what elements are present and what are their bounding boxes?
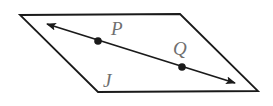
point-p-label: P	[110, 18, 123, 39]
line-in-plane-diagram: P Q J	[0, 0, 273, 106]
point-q-label: Q	[173, 38, 187, 59]
point-q	[178, 63, 186, 71]
line-pq	[47, 24, 235, 83]
plane-j-label: J	[103, 70, 113, 91]
point-p	[94, 37, 102, 45]
